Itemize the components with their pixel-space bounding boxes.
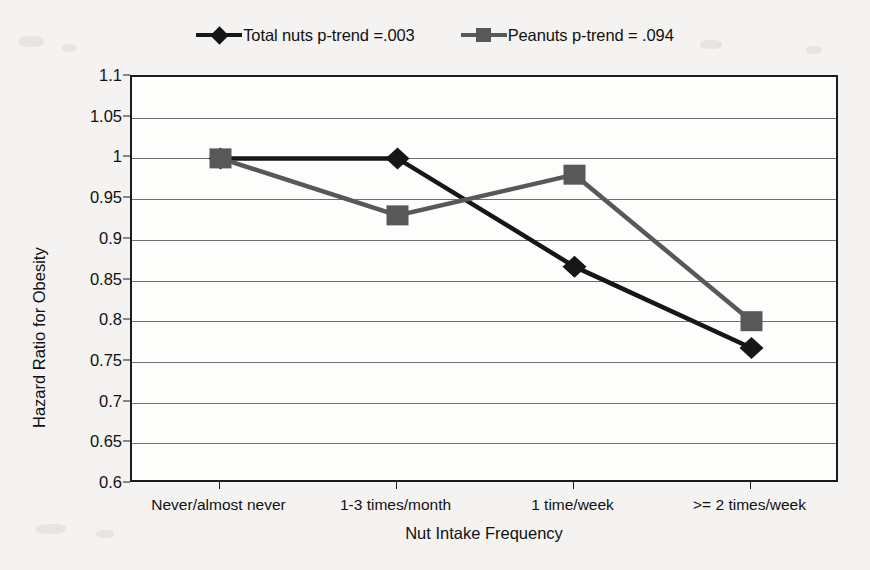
legend-key-total-nuts bbox=[196, 26, 242, 44]
chart-legend: Total nuts p-trend =.003 Peanuts p-trend… bbox=[0, 26, 870, 44]
scan-speck bbox=[18, 36, 44, 47]
y-axis-tick-label: 1.05 bbox=[40, 106, 122, 125]
series-group bbox=[132, 77, 840, 484]
y-axis-tick-mark bbox=[123, 278, 130, 279]
square-marker-icon bbox=[564, 165, 586, 185]
x-axis-title: Nut Intake Frequency bbox=[130, 524, 838, 543]
y-axis-tick-label: 0.7 bbox=[40, 391, 122, 410]
x-axis-tick-label: 1-3 times/month bbox=[340, 496, 451, 514]
y-axis-tick-label: 0.85 bbox=[40, 269, 122, 288]
square-marker-icon bbox=[387, 205, 409, 225]
diamond-marker-icon bbox=[210, 26, 228, 44]
legend-entry-total-nuts: Total nuts p-trend =.003 bbox=[196, 26, 414, 44]
y-axis-tick-label: 1 bbox=[40, 147, 122, 166]
y-axis-tick-label: 0.9 bbox=[40, 228, 122, 247]
y-axis-tick-mark bbox=[123, 319, 130, 320]
plot-area bbox=[130, 75, 838, 482]
x-axis-tick-label: Never/almost never bbox=[151, 496, 285, 514]
x-axis-tick-label: 1 time/week bbox=[531, 496, 614, 514]
scan-speck bbox=[700, 40, 722, 49]
y-axis-tick-label: 0.65 bbox=[40, 432, 122, 451]
legend-line-icon bbox=[196, 33, 242, 37]
y-axis-tick-label: 0.8 bbox=[40, 310, 122, 329]
legend-key-peanuts bbox=[461, 26, 507, 44]
diamond-marker-icon bbox=[740, 337, 764, 359]
square-marker-icon bbox=[210, 148, 232, 168]
scan-speck bbox=[36, 524, 66, 534]
y-axis-tick-label: 0.6 bbox=[40, 473, 122, 492]
y-axis-tick-mark bbox=[123, 400, 130, 401]
y-axis-tick-mark bbox=[123, 482, 130, 483]
chart-figure: Total nuts p-trend =.003 Peanuts p-trend… bbox=[0, 0, 870, 570]
x-axis-tick-mark bbox=[219, 482, 220, 489]
legend-entry-peanuts: Peanuts p-trend = .094 bbox=[461, 26, 674, 44]
scan-speck bbox=[806, 46, 822, 54]
y-axis-tick-mark bbox=[123, 441, 130, 442]
y-axis-tick-label: 0.95 bbox=[40, 188, 122, 207]
square-marker-icon bbox=[741, 311, 763, 331]
scan-speck bbox=[62, 44, 76, 52]
y-axis-tick-mark bbox=[123, 115, 130, 116]
series-line bbox=[221, 158, 752, 321]
y-axis-tick-label: 0.75 bbox=[40, 350, 122, 369]
x-axis-tick-mark bbox=[750, 482, 751, 489]
y-axis-tick-mark bbox=[123, 156, 130, 157]
y-axis-tick-mark bbox=[123, 237, 130, 238]
legend-label-peanuts: Peanuts p-trend = .094 bbox=[508, 27, 674, 44]
y-axis-tick-mark bbox=[123, 75, 130, 76]
square-marker-icon bbox=[476, 28, 491, 42]
x-axis-tick-mark bbox=[573, 482, 574, 489]
y-axis-tick-mark bbox=[123, 359, 130, 360]
legend-label-total-nuts: Total nuts p-trend =.003 bbox=[243, 27, 414, 44]
x-axis-tick-mark bbox=[396, 482, 397, 489]
y-axis-tick-label: 1.1 bbox=[40, 66, 122, 85]
x-axis-tick-label: >= 2 times/week bbox=[693, 496, 806, 514]
y-axis-tick-mark bbox=[123, 197, 130, 198]
legend-line-icon bbox=[461, 33, 507, 37]
scan-speck bbox=[96, 530, 114, 538]
